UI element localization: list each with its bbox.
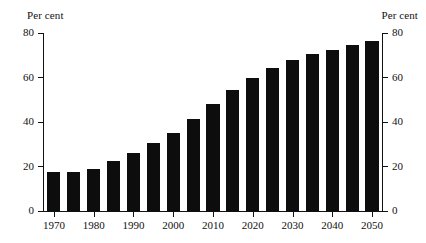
bar-1990 xyxy=(127,153,140,211)
y-axis-unit-label-right: Per cent xyxy=(381,9,418,21)
y-axis-unit-label-left: Per cent xyxy=(27,9,64,21)
x-axis-tick-label-1990: 1990 xyxy=(122,220,144,231)
bar-2010 xyxy=(206,104,219,211)
x-axis-tick-2010 xyxy=(213,212,214,217)
bar-2025 xyxy=(266,68,279,212)
x-axis-tick-label-2050: 2050 xyxy=(361,220,383,231)
bar-1995 xyxy=(147,143,160,211)
x-axis-tick-label-1980: 1980 xyxy=(83,220,105,231)
y-axis-tick-left-60 xyxy=(38,77,43,78)
y-axis-right-spine xyxy=(382,33,383,212)
y-axis-tick-label-right-40: 40 xyxy=(392,116,403,127)
y-axis-tick-right-0 xyxy=(383,211,388,212)
x-axis-tick-2000 xyxy=(173,212,174,217)
y-axis-tick-right-60 xyxy=(383,77,388,78)
plot-area xyxy=(44,33,382,211)
x-axis-tick-2050 xyxy=(372,212,373,217)
bar-2040 xyxy=(326,50,339,211)
x-axis-tick-2040 xyxy=(332,212,333,217)
y-axis-tick-right-80 xyxy=(383,33,388,34)
x-axis-tick-label-2010: 2010 xyxy=(202,220,224,231)
y-axis-tick-right-20 xyxy=(383,166,388,167)
bar-1975 xyxy=(67,172,80,211)
bar-1980 xyxy=(87,169,100,211)
x-axis-tick-1970 xyxy=(54,212,55,217)
y-axis-tick-label-right-80: 80 xyxy=(392,27,403,38)
x-axis-tick-2020 xyxy=(253,212,254,217)
y-axis-tick-label-left-40: 40 xyxy=(23,116,34,127)
bar-2030 xyxy=(286,60,299,211)
x-axis-tick-2030 xyxy=(293,212,294,217)
bar-2020 xyxy=(246,78,259,212)
y-axis-tick-right-40 xyxy=(383,122,388,123)
y-axis-tick-left-0 xyxy=(38,211,43,212)
bar-1985 xyxy=(107,161,120,211)
y-axis-tick-left-80 xyxy=(38,33,43,34)
x-axis-tick-label-2040: 2040 xyxy=(321,220,343,231)
bar-1970 xyxy=(47,172,60,211)
x-axis-tick-label-2030: 2030 xyxy=(282,220,304,231)
bar-2050 xyxy=(365,41,378,211)
bar-2015 xyxy=(226,90,239,211)
bar-2005 xyxy=(187,119,200,211)
y-axis-tick-label-left-80: 80 xyxy=(23,27,34,38)
y-axis-tick-left-20 xyxy=(38,166,43,167)
y-axis-tick-label-left-60: 60 xyxy=(23,72,34,83)
bar-chart: Per cent Per cent 020406080 020406080 19… xyxy=(0,0,426,243)
y-axis-tick-label-right-60: 60 xyxy=(392,72,403,83)
bar-2000 xyxy=(167,133,180,211)
y-axis-tick-label-right-20: 20 xyxy=(392,161,403,172)
x-axis-tick-label-1970: 1970 xyxy=(43,220,65,231)
x-axis-tick-label-2000: 2000 xyxy=(162,220,184,231)
x-axis-tick-label-2020: 2020 xyxy=(242,220,264,231)
y-axis-tick-label-right-0: 0 xyxy=(392,205,398,216)
x-axis-tick-1980 xyxy=(94,212,95,217)
y-axis-tick-label-left-0: 0 xyxy=(29,205,35,216)
bar-2035 xyxy=(306,54,319,211)
bar-2045 xyxy=(346,45,359,211)
y-axis-tick-left-40 xyxy=(38,122,43,123)
x-axis-tick-1990 xyxy=(133,212,134,217)
y-axis-tick-label-left-20: 20 xyxy=(23,161,34,172)
